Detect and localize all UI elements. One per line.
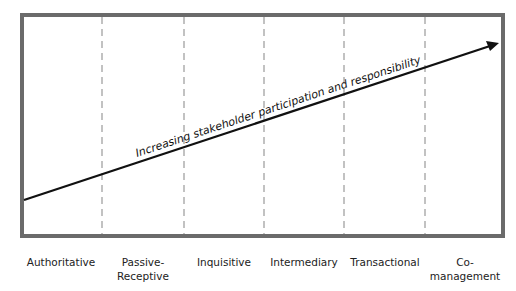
column-dividers <box>102 17 425 234</box>
frame <box>22 15 503 236</box>
category-authoritative: Authoritative <box>20 255 102 269</box>
category-co-management: Co- management <box>424 255 506 283</box>
category-intermediary: Intermediary <box>263 255 345 269</box>
diagram-canvas: Increasing stakeholder participation and… <box>0 0 516 291</box>
participation-arrow <box>24 41 499 200</box>
category-transactional: Transactional <box>344 255 426 269</box>
category-inquisitive: Inquisitive <box>183 255 265 269</box>
arrow-label: Increasing stakeholder participation and… <box>134 53 423 160</box>
category-passive-receptive: Passive- Receptive <box>102 255 184 283</box>
